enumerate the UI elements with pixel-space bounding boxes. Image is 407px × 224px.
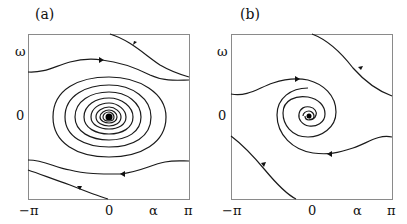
trajectory-bottom-left [28, 170, 108, 199]
arrow-icon [295, 76, 300, 82]
trajectory-top-right [312, 34, 392, 96]
focus-point [307, 114, 312, 119]
arrow-icon [120, 171, 125, 177]
trajectory-bottom-left [231, 136, 296, 199]
arrow-icon [99, 57, 104, 63]
panel-a-phase-portrait [0, 0, 205, 224]
arrow-icon [358, 66, 363, 70]
panel-b-frame [232, 35, 393, 200]
panel-a: (a) ω 0 −π 0 α π [0, 0, 205, 224]
trajectory-upper-spiral [231, 79, 336, 137]
arrow-icon [133, 41, 137, 45]
spiral-focus [53, 77, 166, 157]
trajectory-top-right [110, 34, 189, 77]
spiral-focus [303, 111, 314, 120]
panel-b: (b) ω 0 −π 0 α π [203, 0, 407, 224]
focus-point [106, 114, 113, 121]
panel-b-phase-portrait [203, 0, 407, 224]
arrow-icon [327, 151, 332, 157]
trajectory-lower [28, 160, 189, 174]
